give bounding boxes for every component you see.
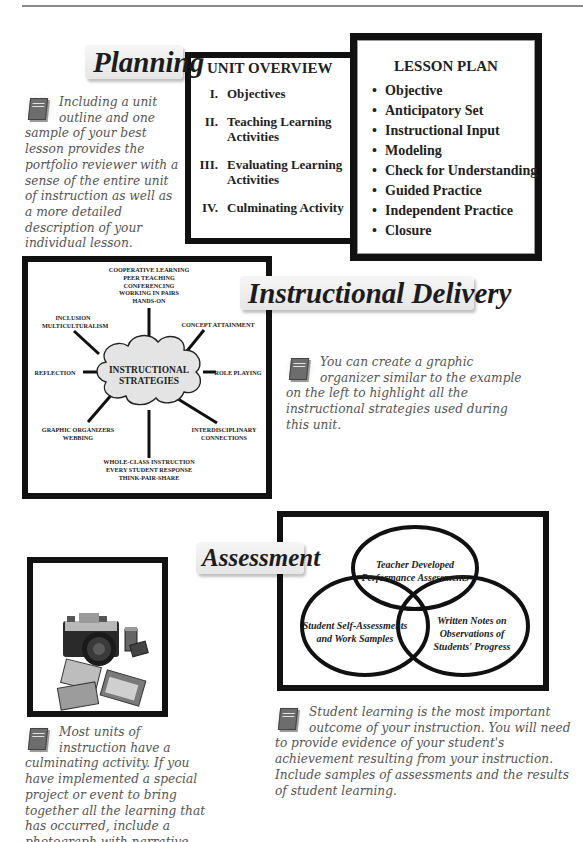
lesson-plan-box: LESSON PLAN Objective Anticipatory Set I… (350, 33, 542, 261)
unit-overview-item: IV.Culminating Activity (197, 200, 357, 215)
unit-overview-box: UNIT OVERVIEW I.Objectives II.Teaching L… (185, 52, 367, 244)
portfolio-book-icon (27, 726, 51, 752)
section-title-instructional-delivery: Instructional Delivery (240, 276, 474, 310)
unit-overview-item: II.Teaching Learning Activities (197, 114, 357, 144)
unit-overview-item: I.Objectives (197, 86, 357, 101)
item-number: II. (197, 114, 227, 144)
lesson-plan-item: Check for Understanding (372, 161, 534, 181)
lesson-plan-item: Guided Practice (372, 181, 534, 201)
lesson-plan-item: Independent Practice (372, 201, 534, 221)
assessment-photo-callout: Most units of instruction have a culmina… (25, 725, 210, 842)
item-label: Evaluating Learning Activities (227, 157, 357, 187)
item-label: Culminating Activity (227, 200, 344, 215)
portfolio-book-icon (288, 356, 312, 382)
photo-box (27, 557, 168, 717)
item-number: IV. (197, 200, 227, 215)
lesson-plan-list: Objective Anticipatory Set Instructional… (372, 81, 534, 241)
lesson-plan-item: Modeling (372, 141, 534, 161)
lesson-plan-item: Anticipatory Set (372, 101, 534, 121)
lesson-plan-item: Instructional Input (372, 121, 534, 141)
unit-overview-title: UNIT OVERVIEW (207, 60, 332, 77)
diagram-label-bottom-left: GRAPHIC ORGANIZERSWEBBING (38, 426, 118, 442)
item-label: Objectives (227, 86, 285, 101)
delivery-callout: You can create a graphic organizer simil… (286, 355, 531, 434)
diagram-label-top-right: CONCEPT ATTAINMENT (178, 321, 258, 329)
delivery-callout-text: You can create a graphic organizer simil… (286, 355, 522, 432)
instructional-strategies-diagram: INSTRUCTIONALSTRATEGIES COOPERATIVE LEAR… (22, 256, 272, 499)
diagram-label-left: REFLECTION (32, 369, 78, 377)
venn-label-right: Written Notes onObservations ofStudents'… (427, 614, 517, 653)
diagram-label-bottom-right: INTERDISCIPLINARYCONNECTIONS (188, 426, 260, 442)
venn-circles (283, 517, 543, 685)
diagram-label-bottom: WHOLE-CLASS INSTRUCTIONEVERY STUDENT RES… (100, 458, 198, 481)
venn-label-left: Student Self-Assessmentsand Work Samples (297, 619, 413, 645)
item-number: I. (197, 86, 227, 101)
section-title-planning: Planning (85, 45, 183, 79)
item-number: III. (197, 157, 227, 187)
portfolio-book-icon (27, 96, 51, 122)
diagram-label-right: ROLE PLAYING (214, 369, 262, 377)
item-label: Teaching Learning Activities (227, 114, 357, 144)
assessment-venn-callout: Student learning is the most important o… (275, 705, 575, 799)
portfolio-book-icon (277, 706, 301, 732)
assessment-venn-callout-text: Student learning is the most important o… (275, 705, 571, 798)
lesson-plan-item: Objective (372, 81, 534, 101)
diagram-label-top-left: INCLUSIONMULTICULTURALISM (42, 314, 104, 330)
lesson-plan-title: LESSON PLAN (358, 58, 534, 75)
diagram-center-label: INSTRUCTIONALSTRATEGIES (96, 365, 202, 387)
unit-overview-list: I.Objectives II.Teaching Learning Activi… (197, 86, 357, 228)
unit-overview-item: III.Evaluating Learning Activities (197, 157, 357, 187)
top-rule (22, 5, 583, 7)
planning-callout: Including a unit outline and one sample … (25, 95, 180, 252)
diagram-label-top: COOPERATIVE LEARNINGPEER TEACHINGCONFERE… (98, 266, 200, 305)
camera-photos-image (33, 563, 162, 711)
section-title-assessment: Assessment (196, 542, 304, 574)
venn-label-top: Teacher DevelopedPerformance Assessments (357, 558, 473, 584)
lesson-plan-item: Closure (372, 221, 534, 241)
lesson-plan-inner: LESSON PLAN Objective Anticipatory Set I… (357, 40, 535, 254)
assessment-venn-diagram: Teacher DevelopedPerformance Assessments… (277, 511, 549, 691)
